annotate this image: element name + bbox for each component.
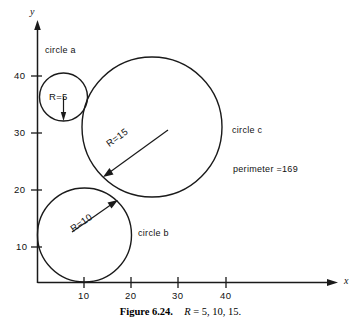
x-tick-label-10: 10 — [78, 290, 89, 301]
x-axis-arrowhead — [327, 279, 338, 286]
y-tick-label-10: 10 — [16, 241, 27, 252]
caption-values: = 5, 10, 15. — [193, 306, 241, 317]
figure-caption: Figure 6.24. R = 5, 10, 15. — [0, 306, 361, 317]
radius-c-arrowhead — [103, 168, 114, 177]
y-axis-label: y — [30, 6, 34, 17]
y-tick-label-20: 20 — [14, 184, 25, 195]
caption-variable: R — [184, 306, 190, 317]
x-tick-label-20: 20 — [125, 290, 136, 301]
circle-c-label: circle c — [232, 125, 262, 135]
circle-b-shape — [38, 188, 132, 282]
y-tick-label-30: 30 — [14, 127, 25, 138]
radius-a-label: R=5 — [49, 91, 68, 102]
caption-figure-number: Figure 6.24. — [120, 306, 173, 317]
radius-b-arrowhead — [108, 200, 119, 209]
perimeter-label: perimeter =169 — [233, 164, 298, 174]
y-axis-arrowhead — [34, 20, 41, 30]
x-tick-label-40: 40 — [220, 290, 231, 301]
circle-a-label: circle a — [45, 45, 76, 55]
y-tick-label-40: 40 — [14, 70, 25, 81]
radius-a-arrowhead — [61, 112, 66, 121]
circle-b-label: circle b — [138, 228, 169, 238]
x-axis-label: x — [344, 275, 348, 286]
figure-container: y x 40 30 20 10 10 20 30 40 circle a cir… — [0, 0, 361, 328]
circle-c-shape — [82, 57, 222, 197]
x-tick-label-30: 30 — [172, 290, 183, 301]
